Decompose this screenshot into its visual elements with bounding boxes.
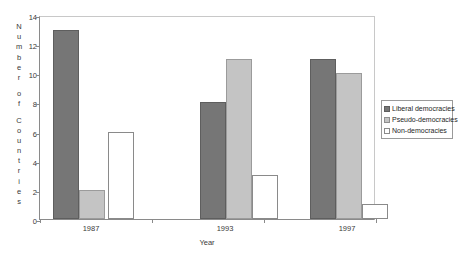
bar <box>252 175 278 219</box>
x-axis-title: Year <box>199 238 214 247</box>
bar <box>226 59 252 219</box>
y-axis-title-char: f <box>9 99 29 109</box>
x-tick-mark <box>376 219 377 223</box>
x-tick-mark <box>40 219 41 223</box>
y-axis-title-char: i <box>9 177 29 187</box>
bar <box>310 59 336 219</box>
x-tick-mark <box>152 219 153 223</box>
bar <box>108 132 134 219</box>
bar <box>79 190 105 219</box>
bar <box>53 30 79 219</box>
plot-area: 02468101214 <box>39 16 375 220</box>
dark-gray-swatch <box>384 106 390 112</box>
y-axis-title-char: N <box>9 22 29 32</box>
legend-label: Liberal democracies <box>392 105 455 113</box>
y-axis-title-char: o <box>9 126 29 136</box>
y-axis-title-char: u <box>9 32 29 42</box>
y-axis-title-char: r <box>9 73 29 83</box>
bar <box>336 73 362 219</box>
x-tick-label: 1997 <box>339 224 356 233</box>
legend-item: Pseudo-democracies <box>384 114 450 125</box>
white-swatch <box>384 128 390 134</box>
bar-chart: NumberofCountries 02468101214 1987199319… <box>0 0 462 257</box>
chart-legend: Liberal democraciesPseudo-democraciesNon… <box>381 100 453 139</box>
bar <box>200 102 226 219</box>
bar <box>362 204 388 219</box>
y-axis-title-char: r <box>9 166 29 176</box>
legend-label: Non-democracies <box>392 127 447 135</box>
y-axis-title-char: t <box>9 156 29 166</box>
legend-label: Pseudo-democracies <box>392 116 458 124</box>
x-tick-mark <box>264 219 265 223</box>
bars-layer <box>40 17 374 219</box>
legend-item: Non-democracies <box>384 125 450 136</box>
y-axis-title-char: s <box>9 197 29 207</box>
y-axis-title-char: C <box>9 116 29 126</box>
legend-item: Liberal democracies <box>384 103 450 114</box>
light-gray-swatch <box>384 117 390 123</box>
y-axis-title-char: b <box>9 53 29 63</box>
y-axis-title: NumberofCountries <box>9 22 29 207</box>
y-axis-title-char: n <box>9 146 29 156</box>
x-tick-label: 1987 <box>83 224 100 233</box>
x-tick-label: 1993 <box>217 224 234 233</box>
y-axis-title-char: u <box>9 136 29 146</box>
y-axis-title-char: e <box>9 187 29 197</box>
y-axis-title-char: o <box>9 89 29 99</box>
y-axis-title-char: m <box>9 42 29 52</box>
y-axis-title-char: e <box>9 63 29 73</box>
